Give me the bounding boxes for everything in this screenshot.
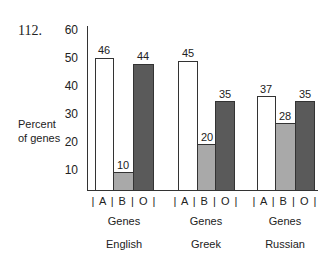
bar-russian-B: [275, 123, 296, 191]
bar-labels-english: | A | B | O |: [84, 195, 164, 207]
bar-english-O: [133, 64, 154, 191]
bar-russian-O: [295, 101, 315, 191]
value-english-A: 46: [92, 44, 116, 56]
value-english-O: 44: [131, 50, 155, 62]
bar-greek-O: [215, 101, 235, 191]
genes-label-english: Genes: [84, 215, 164, 227]
value-russian-B: 28: [273, 110, 297, 122]
value-greek-A: 45: [176, 47, 200, 59]
group-label-russian: Russian: [245, 238, 325, 250]
bar-labels-greek: | A | B | O |: [166, 195, 246, 207]
value-greek-O: 35: [213, 88, 237, 100]
bar-english-B: [113, 172, 134, 191]
bar-english-A: [95, 58, 114, 191]
y-tick-50: 50: [54, 51, 78, 65]
y-tick-40: 40: [54, 79, 78, 93]
y-tick-10: 10: [54, 163, 78, 177]
bar-greek-A: [178, 61, 198, 191]
bar-greek-B: [197, 144, 216, 191]
question-number: 112.: [18, 23, 42, 39]
genes-label-russian: Genes: [245, 215, 325, 227]
y-tick-60: 60: [54, 23, 78, 37]
y-tick-30: 30: [54, 107, 78, 121]
value-russian-A: 37: [254, 83, 278, 95]
group-label-english: English: [84, 238, 164, 250]
genes-label-greek: Genes: [166, 215, 246, 227]
group-label-greek: Greek: [166, 238, 246, 250]
value-russian-O: 35: [293, 88, 317, 100]
value-english-B: 10: [111, 159, 135, 171]
y-tick-20: 20: [54, 135, 78, 149]
bar-labels-russian: | A | B | O |: [245, 195, 325, 207]
y-axis-line: [87, 26, 88, 191]
